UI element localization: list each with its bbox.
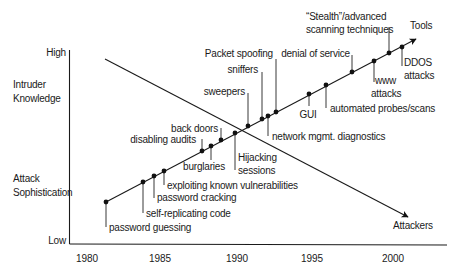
event-marker-dot bbox=[274, 110, 279, 115]
event-label: Packet spoofing bbox=[205, 48, 273, 59]
event-label: DDOS bbox=[404, 57, 433, 68]
attack-sophistication-label-line2: Sophistication bbox=[13, 187, 72, 198]
x-tick-2000: 2000 bbox=[382, 253, 405, 264]
event-label: sweepers bbox=[204, 86, 245, 97]
event-marker-dot bbox=[372, 59, 377, 64]
event-label: GUI bbox=[299, 109, 316, 120]
y-axis-low-label: Low bbox=[48, 235, 67, 246]
event-marker-dot bbox=[307, 92, 312, 97]
event-ddos-attacks: DDOSattacks bbox=[400, 45, 435, 81]
tools-label: Tools bbox=[410, 20, 433, 31]
event-marker-dot bbox=[387, 51, 392, 56]
event-marker-dot bbox=[141, 180, 146, 185]
event-label: exploiting known vulnerabilities bbox=[167, 180, 298, 191]
event-label: disabling audits bbox=[130, 134, 196, 145]
x-tick-1995: 1995 bbox=[301, 253, 324, 264]
event-disabling-audits: disabling audits bbox=[130, 134, 204, 153]
event-label: sniffers bbox=[228, 64, 259, 75]
intruder-knowledge-label-line2: Knowledge bbox=[13, 93, 61, 104]
x-tick-1980: 1980 bbox=[76, 253, 99, 264]
event-gui: GUI bbox=[299, 92, 316, 120]
event-marker-dot bbox=[246, 124, 251, 129]
event-marker-dot bbox=[233, 131, 238, 136]
x-tick-1990: 1990 bbox=[226, 253, 249, 264]
event-label: password guessing bbox=[109, 222, 191, 233]
event-label: automated probes/scans bbox=[330, 103, 435, 114]
event-label: scanning techniques bbox=[306, 24, 394, 35]
event-label: Hijacking bbox=[238, 152, 277, 163]
event-label: “Stealth”/advanced bbox=[306, 11, 386, 22]
event-label: attacks bbox=[371, 88, 401, 99]
event-packet-spoofing: Packet spoofing bbox=[205, 48, 279, 114]
event-marker-dot bbox=[260, 117, 265, 122]
y-axis-high-label: High bbox=[46, 47, 66, 58]
diagram-canvas: High Low Intruder Knowledge Attack Sophi… bbox=[0, 0, 456, 278]
event-label: password cracking bbox=[157, 192, 236, 203]
event-label: attacks bbox=[404, 70, 434, 81]
x-axis bbox=[70, 244, 448, 245]
intruder-knowledge-vs-attack-sophistication-diagram: High Low Intruder Knowledge Attack Sophi… bbox=[0, 0, 456, 278]
event-marker-dot bbox=[104, 200, 109, 205]
event-marker-dot bbox=[324, 83, 329, 88]
x-axis-tick-labels: 19801985199019952000 bbox=[76, 253, 405, 264]
event-network-mgmt-diagnostics: network mgmt. diagnostics bbox=[266, 114, 386, 142]
event-marker-dot bbox=[209, 144, 214, 149]
event-label: denial of service bbox=[281, 48, 350, 59]
intruder-knowledge-label-line1: Intruder bbox=[13, 79, 47, 90]
event-marker-dot bbox=[200, 149, 205, 154]
event-label: back doors bbox=[171, 123, 218, 134]
x-tick-1985: 1985 bbox=[149, 253, 172, 264]
event-label: network mgmt. diagnostics bbox=[272, 131, 386, 142]
event-denial-of-service: denial of service bbox=[281, 48, 354, 74]
event-www-attacks: wwwattacks bbox=[371, 59, 401, 99]
event-marker-dot bbox=[266, 114, 271, 119]
attack-sophistication-label-line1: Attack bbox=[13, 173, 41, 184]
attackers-label: Attackers bbox=[393, 220, 433, 231]
event-marker-dot bbox=[219, 138, 224, 143]
event-label: sessions bbox=[238, 165, 276, 176]
event-marker-dot bbox=[400, 45, 405, 50]
event-label: burglaries bbox=[183, 161, 225, 172]
event-label: self-replicating code bbox=[146, 208, 231, 219]
attack-events: password guessingself-replicating codepa… bbox=[104, 11, 436, 233]
event-marker-dot bbox=[162, 169, 167, 174]
event-exploiting-known-vulnerabilities: exploiting known vulnerabilities bbox=[162, 169, 298, 191]
event-marker-dot bbox=[350, 70, 355, 75]
event-marker-dot bbox=[152, 174, 157, 179]
event-label: www bbox=[374, 75, 397, 86]
